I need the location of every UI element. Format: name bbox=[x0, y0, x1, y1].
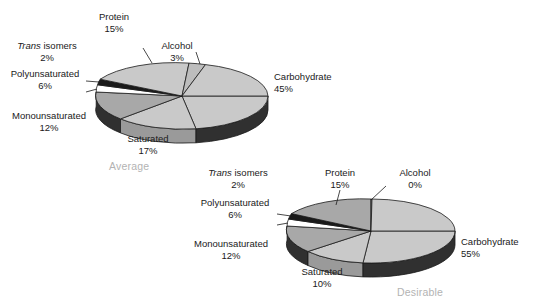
leader-trans-average bbox=[86, 81, 99, 82]
label-saturated-average: Saturated 17% bbox=[112, 133, 184, 156]
chart-caption-desirable: Desirable bbox=[397, 286, 443, 298]
label-carbohydrate-desirable: Carbohydrate 55% bbox=[461, 236, 536, 259]
label-monounsaturated-desirable: Monounsaturated 12% bbox=[185, 238, 277, 261]
label-alcohol-average: Alcohol 3% bbox=[148, 40, 206, 63]
trans-italic: Trans bbox=[17, 40, 41, 51]
pie-chart-desirable bbox=[277, 186, 455, 277]
label-polyunsaturated-desirable: Polyunsaturated 6% bbox=[193, 197, 277, 220]
leader-trans-desirable bbox=[277, 214, 291, 216]
label-protein-average: Protein 15% bbox=[78, 11, 150, 34]
label-alcohol-desirable: Alcohol 0% bbox=[386, 167, 444, 190]
label-protein-desirable: Protein 15% bbox=[306, 167, 374, 190]
label-monounsaturated-average: Monounsaturated 12% bbox=[3, 110, 95, 133]
leader-poly-desirable bbox=[277, 223, 288, 225]
label-polyunsaturated-average: Polyunsaturated 6% bbox=[3, 68, 87, 91]
pie-chart-figure: .wedge-top { stroke:#1a1a1a; stroke-widt… bbox=[0, 0, 536, 307]
trans-italic: Trans bbox=[208, 167, 232, 178]
wedge-carbohydrate-upper-desirable bbox=[371, 199, 455, 231]
label-carbohydrate-average: Carbohydrate 45% bbox=[274, 71, 364, 94]
label-saturated-desirable: Saturated 10% bbox=[286, 266, 358, 289]
label-trans-isomers-average: Trans isomers 2% bbox=[8, 40, 86, 63]
trans-rest: isomers bbox=[232, 167, 268, 178]
leader-poly-average bbox=[86, 89, 97, 92]
label-trans-isomers-desirable: Trans isomers 2% bbox=[199, 167, 277, 190]
trans-rest: isomers bbox=[41, 40, 77, 51]
chart-caption-average: Average bbox=[109, 160, 149, 172]
